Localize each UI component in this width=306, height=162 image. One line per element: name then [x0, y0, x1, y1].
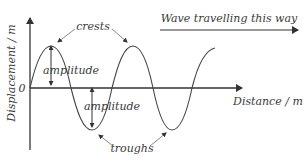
origin-label: 0 — [19, 82, 26, 95]
crest-pointer-2 — [112, 29, 127, 42]
amplitude-label-bottom: amplitude — [84, 100, 141, 113]
troughs-label: troughs — [110, 142, 154, 155]
amplitude-label-top: amplitude — [43, 64, 100, 77]
trough-pointer-2 — [150, 133, 166, 146]
crest-pointer-1 — [58, 29, 75, 42]
wave-diagram: Wave travelling this way Displacement / … — [0, 0, 306, 162]
x-axis-label: Distance / m — [232, 95, 303, 108]
trough-pointer-1 — [99, 135, 113, 146]
travel-direction-label: Wave travelling this way — [161, 12, 298, 25]
crests-label: crests — [76, 20, 110, 33]
y-axis-label: Displacement / m — [5, 24, 18, 122]
